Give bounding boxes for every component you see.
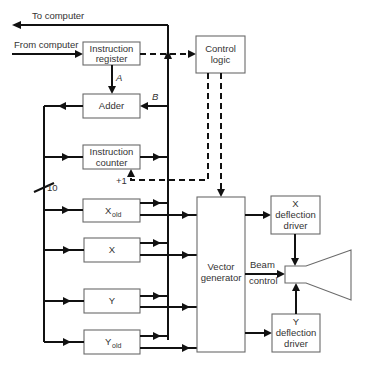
svg-text:X: X — [292, 198, 299, 209]
y-deflection-driver-block: Y deflection driver — [272, 314, 320, 352]
svg-text:logic: logic — [211, 54, 231, 65]
svg-text:deflection: deflection — [275, 209, 316, 220]
control-to-increment-dashed — [131, 73, 208, 180]
y-old-register-block: Y old — [84, 330, 140, 354]
control-logic-block: Control logic — [196, 36, 245, 73]
instruction-register-block: Instruction register — [83, 42, 140, 65]
y-register-block: Y — [84, 289, 140, 313]
svg-text:Instruction: Instruction — [90, 146, 134, 157]
x-register-block: X — [84, 238, 140, 262]
svg-text:deflection: deflection — [276, 327, 317, 338]
svg-text:Control: Control — [205, 43, 236, 54]
x-old-register-block: X old — [83, 199, 140, 222]
svg-text:Y: Y — [293, 316, 300, 327]
svg-text:control: control — [249, 275, 278, 286]
beam-control-label: Beam — [250, 259, 275, 270]
instruction-counter-block: Instruction counter — [83, 145, 140, 169]
svg-text:driver: driver — [284, 338, 308, 349]
svg-text:register: register — [96, 53, 128, 64]
from-computer-label: From computer — [14, 39, 78, 50]
svg-text:generator: generator — [201, 272, 242, 283]
arrow-left-icon — [12, 21, 21, 29]
to-computer-label: To computer — [32, 10, 84, 21]
x-deflection-driver-block: X deflection driver — [271, 196, 320, 234]
bus-width-label: 10 — [47, 182, 58, 193]
svg-text:driver: driver — [284, 220, 308, 231]
display-processor-diagram: To computer From computer 10 Instruction… — [0, 0, 367, 368]
adder-block: Adder — [83, 94, 140, 118]
increment-label: +1 — [116, 175, 127, 186]
path-b-label: B — [152, 91, 159, 102]
arrow-right-icon — [75, 50, 83, 58]
svg-text:Adder: Adder — [99, 100, 124, 111]
vector-generator-block: Vector generator — [197, 197, 245, 352]
svg-text:X: X — [105, 205, 112, 216]
from-computer-connection: From computer — [12, 39, 83, 58]
svg-text:Vector: Vector — [208, 261, 235, 272]
svg-text:X: X — [109, 244, 116, 255]
svg-text:old: old — [112, 342, 121, 349]
path-a-label: A — [115, 72, 122, 83]
svg-text:Y: Y — [109, 295, 116, 306]
to-computer-connection: To computer — [12, 10, 168, 29]
svg-text:old: old — [112, 211, 121, 218]
svg-text:counter: counter — [96, 157, 128, 168]
svg-text:Y: Y — [105, 336, 112, 347]
